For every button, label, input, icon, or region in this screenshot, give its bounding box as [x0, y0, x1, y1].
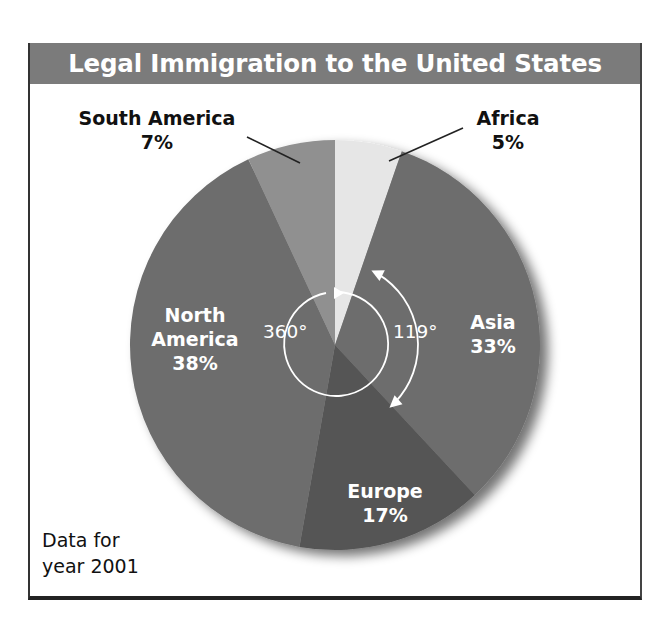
label-north-america-line1: North — [145, 303, 245, 327]
angle-label-119: 119° — [393, 321, 438, 342]
note-line1: Data for — [42, 527, 139, 553]
label-south-america: South America 7% — [62, 106, 252, 154]
label-south-america-pct: 7% — [62, 130, 252, 154]
data-year-note: Data for year 2001 — [42, 527, 139, 579]
note-line2: year 2001 — [42, 553, 139, 579]
label-europe-name: Europe — [335, 479, 435, 503]
label-africa-name: Africa — [468, 106, 548, 130]
label-north-america: North America 38% — [145, 303, 245, 375]
africa-leader-line — [389, 128, 463, 161]
label-europe-pct: 17% — [335, 503, 435, 527]
label-asia-name: Asia — [458, 310, 528, 334]
label-europe: Europe 17% — [335, 479, 435, 527]
label-africa: Africa 5% — [468, 106, 548, 154]
label-south-america-name: South America — [62, 106, 252, 130]
angle-label-360: 360° — [263, 321, 308, 342]
label-asia: Asia 33% — [458, 310, 528, 358]
label-north-america-line2: America — [145, 327, 245, 351]
label-asia-pct: 33% — [458, 334, 528, 358]
label-africa-pct: 5% — [468, 130, 548, 154]
label-north-america-pct: 38% — [145, 351, 245, 375]
